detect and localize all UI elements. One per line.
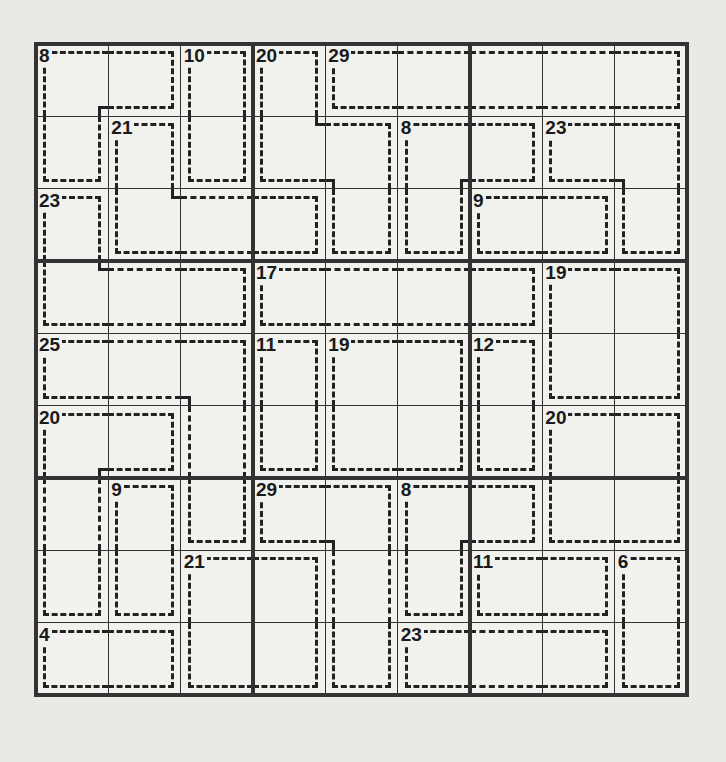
sudoku-cell[interactable]: [398, 550, 470, 622]
sudoku-cell[interactable]: [253, 116, 325, 188]
sudoku-cell[interactable]: [325, 189, 397, 261]
cage-sum-clue: 9: [111, 480, 124, 500]
sudoku-cell[interactable]: [470, 406, 542, 478]
sudoku-cell[interactable]: [108, 623, 180, 695]
sudoku-cell[interactable]: [325, 550, 397, 622]
sudoku-cell[interactable]: [398, 333, 470, 405]
sudoku-cell[interactable]: [325, 261, 397, 333]
sudoku-cell[interactable]: [181, 623, 253, 695]
killer-sudoku-board: 8102029218232391719251119122020929821116…: [36, 44, 687, 695]
sudoku-cell[interactable]: [36, 550, 108, 622]
sudoku-cell[interactable]: [325, 406, 397, 478]
cage-sum-clue: 29: [256, 480, 279, 500]
cage-sum-clue: 8: [401, 480, 414, 500]
sudoku-cell[interactable]: [615, 44, 687, 116]
cage-sum-clue: 20: [545, 408, 568, 428]
sudoku-cell[interactable]: [542, 623, 614, 695]
sudoku-cell[interactable]: [181, 116, 253, 188]
sudoku-cell[interactable]: [398, 44, 470, 116]
sudoku-cell[interactable]: [542, 333, 614, 405]
cage-sum-clue: 20: [39, 408, 62, 428]
cage-sum-clue: 10: [184, 46, 207, 66]
cage-sum-clue: 21: [111, 118, 134, 138]
sudoku-cell[interactable]: [615, 623, 687, 695]
cage-sum-clue: 4: [39, 625, 52, 645]
cage-sum-clue: 12: [473, 335, 496, 355]
sudoku-cell[interactable]: [253, 550, 325, 622]
sudoku-cell[interactable]: [470, 44, 542, 116]
cage-sum-clue: 11: [256, 335, 278, 355]
cage-sum-clue: 6: [618, 552, 631, 572]
sudoku-cell[interactable]: [542, 478, 614, 550]
sudoku-cell[interactable]: [36, 478, 108, 550]
sudoku-cell[interactable]: [542, 44, 614, 116]
sudoku-cell[interactable]: [470, 261, 542, 333]
cage-sum-clue: 8: [401, 118, 414, 138]
cage-sum-clue: 19: [328, 335, 351, 355]
cage-sum-clue: 23: [401, 625, 424, 645]
sudoku-cell[interactable]: [253, 406, 325, 478]
sudoku-cell[interactable]: [398, 189, 470, 261]
sudoku-cell[interactable]: [253, 189, 325, 261]
cage-sum-clue: 25: [39, 335, 62, 355]
sudoku-cell[interactable]: [470, 478, 542, 550]
sudoku-cell[interactable]: [398, 406, 470, 478]
cage-sum-clue: 23: [39, 191, 62, 211]
sudoku-cell[interactable]: [470, 116, 542, 188]
cage-sum-clue: 23: [545, 118, 568, 138]
sudoku-cell[interactable]: [108, 333, 180, 405]
cage-sum-clue: 8: [39, 46, 52, 66]
sudoku-cell[interactable]: [542, 189, 614, 261]
cage-sum-clue: 19: [545, 263, 568, 283]
cage-sum-clue: 21: [184, 552, 207, 572]
sudoku-cell[interactable]: [108, 261, 180, 333]
sudoku-cell[interactable]: [615, 189, 687, 261]
cage-sum-clue: 9: [473, 191, 486, 211]
sudoku-cell[interactable]: [181, 189, 253, 261]
sudoku-cell[interactable]: [181, 478, 253, 550]
cage-sum-clue: 29: [328, 46, 351, 66]
sudoku-cell[interactable]: [253, 623, 325, 695]
sudoku-cell[interactable]: [615, 406, 687, 478]
sudoku-cell[interactable]: [181, 406, 253, 478]
sudoku-cell[interactable]: [615, 116, 687, 188]
sudoku-cell[interactable]: [181, 333, 253, 405]
sudoku-cell[interactable]: [108, 406, 180, 478]
sudoku-cell[interactable]: [615, 478, 687, 550]
sudoku-cell[interactable]: [36, 261, 108, 333]
sudoku-cell[interactable]: [615, 261, 687, 333]
sudoku-cell[interactable]: [108, 44, 180, 116]
sudoku-cell[interactable]: [615, 333, 687, 405]
sudoku-cell[interactable]: [325, 623, 397, 695]
sudoku-cell[interactable]: [542, 550, 614, 622]
cage-sum-clue: 11: [473, 552, 495, 572]
cage-sum-clue: 20: [256, 46, 279, 66]
sudoku-cell[interactable]: [181, 261, 253, 333]
sudoku-cell[interactable]: [325, 478, 397, 550]
sudoku-cell[interactable]: [108, 189, 180, 261]
sudoku-cell[interactable]: [36, 116, 108, 188]
sudoku-cell[interactable]: [325, 116, 397, 188]
sudoku-cell[interactable]: [398, 261, 470, 333]
cage-sum-clue: 17: [256, 263, 279, 283]
sudoku-cell[interactable]: [108, 550, 180, 622]
sudoku-cell[interactable]: [470, 623, 542, 695]
